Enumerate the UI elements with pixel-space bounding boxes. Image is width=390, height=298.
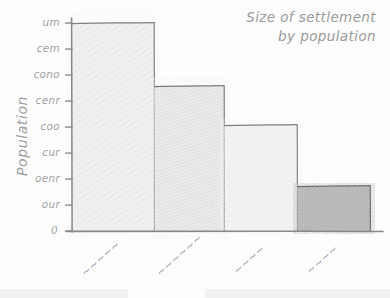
y-tick-label: cenr <box>36 94 60 106</box>
y-tick-label: oenr <box>35 172 60 184</box>
bar-4[interactable] <box>298 186 371 232</box>
y-tick-label: cem <box>37 42 60 54</box>
y-tick-label: our <box>42 198 60 210</box>
chart-root: Size of settlement by population Populat… <box>0 0 390 298</box>
chart-title-line-2: by population <box>246 27 376 46</box>
y-tick-label: 0 <box>51 224 58 236</box>
y-tick-label: um <box>43 16 60 28</box>
chart-title: Size of settlement by population <box>246 8 376 46</box>
y-tick-label: coo <box>40 120 60 132</box>
plot-area: Size of settlement by population Populat… <box>0 0 390 298</box>
bar-1[interactable] <box>72 23 155 232</box>
y-tick-label: cur <box>42 146 60 158</box>
bar-2[interactable] <box>155 86 225 232</box>
y-tick-label: cono <box>34 68 60 80</box>
chart-title-line-1: Size of settlement <box>246 8 376 27</box>
y-axis-label: Population <box>14 88 30 184</box>
bar-3[interactable] <box>225 125 298 232</box>
